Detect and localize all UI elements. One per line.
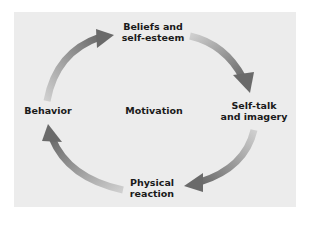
node-physical: Physical reaction [122,177,182,199]
arrow-selftalk-to-physical [184,130,254,192]
node-beliefs-line2: self-esteem [118,32,188,43]
node-beliefs-line1: Beliefs and [118,21,188,32]
node-physical-line1: Physical [122,177,182,188]
node-behavior-line1: Behavior [20,105,76,116]
node-behavior: Behavior [20,105,76,116]
arrow-behavior-to-beliefs [47,29,114,101]
node-beliefs: Beliefs and self-esteem [118,21,188,43]
node-selftalk: Self-talk and imagery [216,100,292,122]
arrow-beliefs-to-selftalk [190,36,254,93]
node-physical-line2: reaction [122,188,182,199]
node-selftalk-line1: Self-talk [216,100,292,111]
arrow-physical-to-behavior [42,124,123,190]
center-label: Motivation [124,105,184,116]
node-selftalk-line2: and imagery [216,111,292,122]
